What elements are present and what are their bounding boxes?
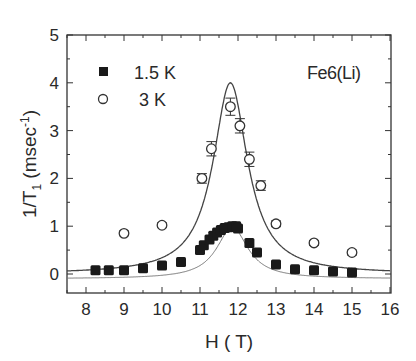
data-point — [226, 102, 236, 112]
data-point — [271, 219, 281, 229]
y-tick-label: 5 — [50, 26, 59, 45]
x-tick-label: 9 — [119, 300, 128, 319]
open-circle-marker-icon — [99, 95, 108, 104]
data-point — [119, 229, 129, 239]
y-axis-title-main: 1/T — [19, 190, 40, 218]
y-tick-label: 0 — [50, 265, 59, 284]
data-point — [176, 257, 186, 267]
legend: 1.5 K 3 K — [99, 63, 177, 110]
data-point — [252, 247, 262, 257]
data-point — [207, 144, 217, 154]
data-point — [245, 154, 255, 164]
data-point — [290, 264, 300, 274]
x-tick-label: 8 — [81, 300, 90, 319]
data-point — [347, 248, 357, 258]
x-tick-label: 10 — [153, 300, 172, 319]
data-point — [235, 121, 245, 131]
x-tick-label: 12 — [229, 300, 248, 319]
data-point — [309, 265, 319, 275]
x-tick-label: 15 — [343, 300, 362, 319]
data-point — [91, 265, 101, 275]
data-point — [157, 260, 167, 270]
y-tick-label: 3 — [50, 122, 59, 141]
x-tick-label: 16 — [381, 300, 400, 319]
y-tick-label: 4 — [50, 74, 59, 93]
y-axis-title: 1/T1 (msec-1) — [18, 110, 44, 218]
y-tick-label: 2 — [50, 169, 59, 188]
y-tick-label: 1 — [50, 217, 59, 236]
data-series — [91, 98, 358, 277]
data-point — [197, 174, 207, 184]
x-tick-label: 11 — [191, 300, 209, 319]
fit-1.5K-curve — [67, 227, 390, 278]
data-point — [119, 265, 129, 275]
data-point — [271, 259, 281, 269]
data-point — [256, 181, 266, 191]
series-1-5-k — [91, 221, 358, 277]
y-axis-title-unit: (msec — [19, 127, 40, 184]
data-point — [233, 224, 243, 234]
data-point — [309, 238, 319, 248]
x-axis-title: H ( T) — [205, 331, 253, 352]
data-point — [244, 238, 254, 248]
data-point — [347, 268, 357, 278]
data-point — [104, 265, 114, 275]
data-point — [328, 267, 338, 277]
svg-text:1/T1 (msec-1): 1/T1 (msec-1) — [18, 110, 44, 218]
legend-label: 1.5 K — [134, 63, 176, 83]
filled-square-marker-icon — [99, 67, 108, 76]
fit-curves — [67, 83, 390, 278]
x-tick-label: 14 — [305, 300, 324, 319]
data-point — [138, 263, 148, 273]
chart: 8910111213141516012345 H ( T) 1/T1 (msec… — [0, 0, 416, 361]
legend-item-3k: 3 K — [99, 90, 167, 110]
y-axis-title-close: ) — [19, 110, 40, 116]
y-axis-title-sup: -1 — [18, 116, 32, 127]
data-point — [157, 220, 167, 230]
sample-annotation: Fe6(Li) — [307, 63, 361, 83]
legend-item-1-5k: 1.5 K — [99, 63, 176, 83]
x-tick-label: 13 — [267, 300, 286, 319]
legend-label: 3 K — [139, 90, 166, 110]
